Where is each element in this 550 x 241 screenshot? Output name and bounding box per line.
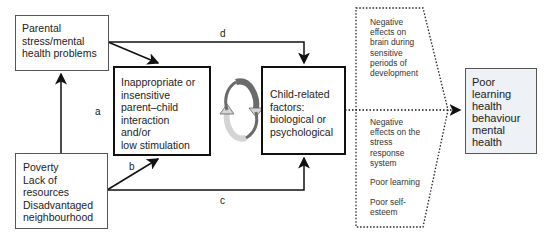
- edge-label-d: d: [220, 28, 226, 39]
- diagram: Parental stress/mental health problems P…: [0, 0, 550, 241]
- child-factors-box: Child-related factors: biological or psy…: [261, 66, 346, 155]
- poor-learning-text: Poor learning: [370, 177, 420, 187]
- arrow-parental-interaction: [108, 42, 158, 63]
- edge-label-a: a: [95, 106, 101, 117]
- effects-brain-text: Negative effects on brain during sensiti…: [370, 17, 418, 78]
- arrow-d: [108, 42, 304, 63]
- effects-stress-text: Negative effects on the stress response …: [370, 117, 420, 168]
- parental-stress-box: Parental stress/mental health problems: [15, 15, 109, 71]
- poverty-box: Poverty Lack of resources Disadvantaged …: [15, 153, 108, 229]
- interaction-box: Inappropriate or insensitive parent–chil…: [113, 66, 211, 156]
- poor-esteem-text: Poor self- esteem: [370, 197, 406, 217]
- outcome-box: Poor learning health behaviour mental he…: [465, 68, 537, 154]
- edge-label-c: c: [220, 195, 225, 206]
- edge-label-b: b: [129, 161, 135, 172]
- cycle-icon: [220, 81, 263, 138]
- arrow-c: [107, 158, 304, 190]
